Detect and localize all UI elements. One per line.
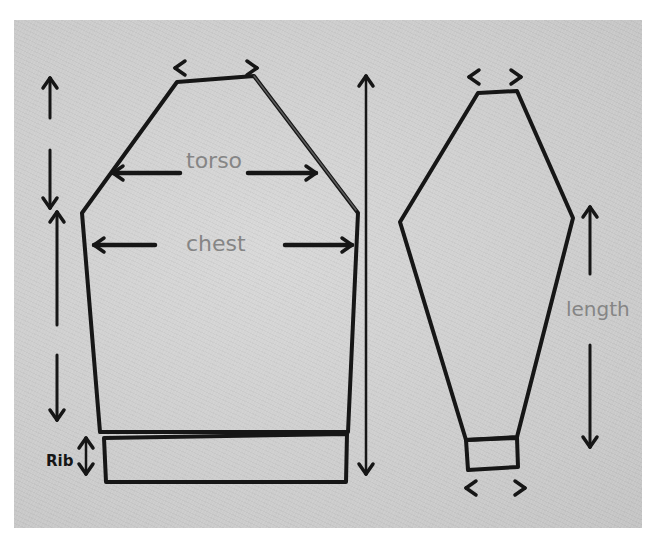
cuff-width-arrows <box>466 481 525 495</box>
yoke-depth-arrow <box>43 78 57 208</box>
length-label: length <box>566 297 630 321</box>
measurement-arrows <box>43 61 597 495</box>
chest-label: chest <box>186 231 246 256</box>
overall-length-arrow <box>359 76 373 474</box>
body-rib-band <box>104 434 347 482</box>
body-piece <box>82 76 358 482</box>
pencil-guide-line <box>254 76 356 210</box>
sleeve-cuff <box>466 438 518 470</box>
rib-label: Rib <box>46 452 74 470</box>
sleeve-length-arrow <box>583 207 597 447</box>
sleeve-top-width-arrows <box>469 70 521 84</box>
sweater-sketch: torso chest Rib length <box>0 0 659 542</box>
rib-depth-arrow <box>79 438 93 474</box>
torso-label: torso <box>186 148 242 173</box>
sleeve-piece <box>400 91 573 470</box>
neck-width-arrows <box>175 61 257 75</box>
sleeve-outline <box>400 91 573 440</box>
body-depth-arrow <box>50 212 64 420</box>
